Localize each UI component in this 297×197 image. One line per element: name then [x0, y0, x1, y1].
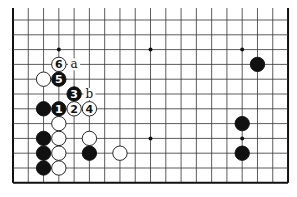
black-stone — [36, 131, 50, 145]
star-point — [240, 136, 244, 140]
white-stone — [52, 131, 66, 145]
black-stone — [36, 161, 50, 175]
white-stone — [52, 146, 66, 160]
move-number: 6 — [55, 58, 63, 71]
move-number: 3 — [70, 88, 78, 101]
move-number: 4 — [86, 103, 94, 116]
white-stone — [113, 146, 127, 160]
move-number: 2 — [70, 103, 78, 116]
star-point — [149, 48, 153, 52]
move-number: 1 — [55, 103, 63, 116]
black-stone — [36, 102, 50, 116]
go-board-diagram: ab 653124 — [0, 0, 297, 197]
black-stone — [36, 146, 50, 160]
white-stone — [82, 131, 96, 145]
black-stone — [235, 146, 249, 160]
star-point — [240, 48, 244, 52]
black-stone — [82, 146, 96, 160]
move-number: 5 — [55, 73, 63, 86]
black-stone — [235, 116, 249, 130]
star-point — [57, 48, 61, 52]
marker-label: b — [86, 87, 94, 101]
white-stone — [36, 72, 50, 86]
black-stone — [250, 57, 264, 71]
white-stone — [52, 116, 66, 130]
star-point — [149, 136, 153, 140]
marker-label: a — [71, 57, 78, 71]
white-stone — [52, 161, 66, 175]
